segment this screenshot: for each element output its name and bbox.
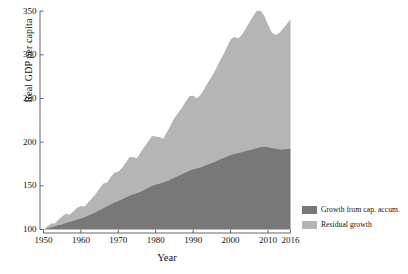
- y-axis-tick-label: 350: [11, 7, 37, 16]
- chart-figure: Real GDP per capita Year 100150200250300…: [0, 0, 408, 274]
- x-axis-tick-label: 2000: [214, 236, 248, 245]
- x-axis-tick-label: 1960: [64, 236, 98, 245]
- y-axis-tick-label: 100: [11, 225, 37, 234]
- y-axis-label: Real GDP per capita: [23, 0, 34, 141]
- legend-item-residual: Residual growth: [302, 218, 408, 231]
- y-axis-tick-label: 250: [11, 94, 37, 103]
- chart-legend: Growth from cap. accum. Residual growth: [302, 203, 408, 233]
- legend-label-residual: Residual growth: [321, 221, 372, 229]
- legend-swatch-cap-accum: [302, 206, 317, 214]
- legend-item-cap-accum: Growth from cap. accum.: [302, 203, 408, 216]
- y-axis-tick-label: 200: [11, 138, 37, 147]
- x-axis-tick-label: 1990: [176, 236, 210, 245]
- x-axis-tick-label: 2016: [274, 236, 308, 245]
- x-axis-tick-label: 1980: [139, 236, 173, 245]
- x-axis-label: Year: [44, 252, 290, 263]
- y-axis-tick-label: 150: [11, 181, 37, 190]
- x-axis-tick-label: 1970: [101, 236, 135, 245]
- x-axis-tick-label: 1950: [27, 236, 61, 245]
- legend-swatch-residual: [302, 221, 317, 229]
- legend-label-cap-accum: Growth from cap. accum.: [321, 206, 400, 214]
- y-axis-tick-label: 300: [11, 50, 37, 59]
